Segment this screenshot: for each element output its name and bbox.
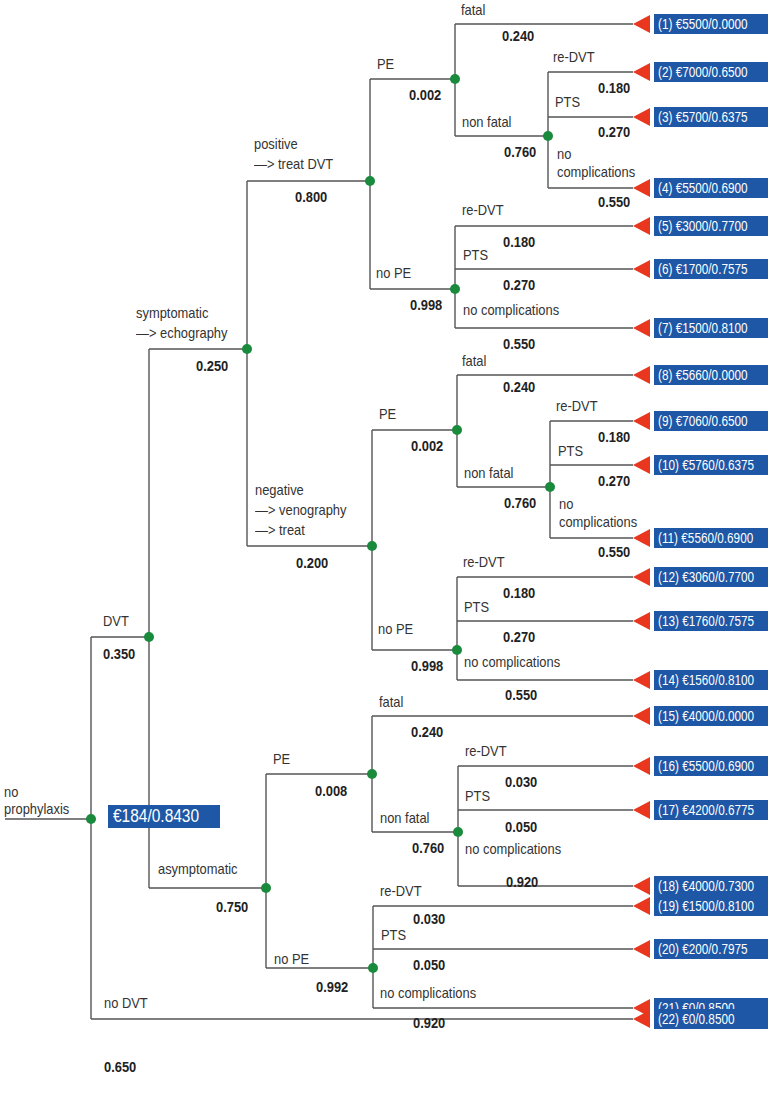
branch-prob-no-pe: 0.992 — [316, 978, 348, 995]
branch-label-no-complications: no complications — [465, 840, 561, 857]
branch-prob-pe: 0.002 — [409, 86, 441, 103]
expected-value: €184/0.8430 — [113, 805, 199, 828]
outcome-box: (16) €5500/0.6900 — [654, 756, 768, 776]
chance-node — [86, 814, 96, 824]
chance-node — [452, 645, 462, 655]
outcome-value: (8) €5660/0.0000 — [658, 365, 748, 385]
decision-tree-diagram: no prophylaxis €184/0.8430 DVT 0.350 no … — [0, 0, 772, 1093]
outcome-box: (14) €1560/0.8100 — [654, 670, 768, 690]
branch-label-negative: negative — [255, 481, 304, 498]
terminal-node-icon — [633, 897, 650, 915]
branch-label-no-pe: no PE — [376, 264, 411, 281]
chance-node — [543, 131, 553, 141]
outcome-value: (10) €5760/0.6375 — [658, 455, 754, 475]
terminal-node-icon — [633, 412, 650, 430]
outcome-box: (15) €4000/0.0000 — [654, 706, 768, 726]
outcome-box: (17) €4200/0.6775 — [654, 800, 768, 820]
branch-label-negative: —> venography — [255, 501, 346, 518]
branch-label-re-dvt: re-DVT — [465, 742, 507, 759]
terminal-node-icon — [633, 63, 650, 81]
chance-node — [367, 541, 377, 551]
outcome-value: (13) €1760/0.7575 — [658, 611, 754, 631]
outcome-box: (9) €7060/0.6500 — [654, 411, 768, 431]
outcome-box: (10) €5760/0.6375 — [654, 455, 768, 475]
branch-prob-no-complications: 0.550 — [505, 686, 537, 703]
outcome-box: (4) €5500/0.6900 — [654, 178, 768, 198]
branch-label-no-pe: no PE — [274, 950, 309, 967]
branch-prob-no-pe: 0.998 — [410, 296, 442, 313]
branch-label-pts: PTS — [465, 787, 490, 804]
branch-label-asymptomatic: asymptomatic — [158, 860, 238, 877]
branch-label-pe: PE — [273, 750, 290, 767]
outcome-value: (7) €1500/0.8100 — [658, 318, 748, 338]
branch-prob-asymptomatic: 0.750 — [216, 898, 248, 915]
chance-node — [450, 284, 460, 294]
branch-label-negative: —> treat — [255, 521, 305, 538]
chance-node — [367, 769, 377, 779]
branch-prob-pts: 0.270 — [503, 276, 535, 293]
terminal-node-icon — [633, 568, 650, 586]
branch-prob-no-complications: 0.550 — [503, 335, 535, 352]
chance-node — [242, 344, 252, 354]
branch-label-no-complications: complications — [559, 513, 637, 530]
branch-label-no-complications: no complications — [463, 301, 559, 318]
expected-value-box: €184/0.8430 — [108, 805, 220, 828]
branch-label-re-dvt: re-DVT — [553, 48, 595, 65]
branch-label-no-complications: no — [559, 495, 573, 512]
outcome-box: (6) €1700/0.7575 — [654, 259, 768, 279]
branch-prob-fatal: 0.240 — [411, 723, 443, 740]
terminal-node-icon — [633, 1010, 650, 1028]
chance-node — [545, 482, 555, 492]
terminal-node-icon — [633, 456, 650, 474]
branch-label-non-fatal: non fatal — [462, 113, 511, 130]
root-label: prophylaxis — [4, 800, 69, 817]
chance-node — [261, 883, 271, 893]
terminal-node-icon — [633, 801, 650, 819]
terminal-node-icon — [633, 612, 650, 630]
branch-prob-fatal: 0.240 — [503, 378, 535, 395]
branch-label-pts: PTS — [558, 442, 583, 459]
outcome-box: (8) €5660/0.0000 — [654, 365, 768, 385]
outcome-value: (4) €5500/0.6900 — [658, 178, 748, 198]
outcome-box: (7) €1500/0.8100 — [654, 318, 768, 338]
outcome-box: (22) €0/0.8500 — [654, 1009, 768, 1029]
outcome-value: (20) €200/0.7975 — [658, 939, 748, 959]
branch-prob-no-complications: 0.920 — [506, 873, 538, 890]
terminal-node-icon — [633, 529, 650, 547]
outcome-box: (2) €7000/0.6500 — [654, 62, 768, 82]
branch-label-positive: positive — [254, 135, 298, 152]
branch-prob-pe: 0.002 — [411, 437, 443, 454]
branch-prob-no-dvt: 0.650 — [104, 1058, 136, 1075]
branch-prob-symptomatic: 0.250 — [196, 357, 228, 374]
branch-prob-no-complications: 0.550 — [598, 543, 630, 560]
branch-label-re-dvt: re-DVT — [556, 397, 598, 414]
branch-prob-negative: 0.200 — [296, 554, 328, 571]
terminal-node-icon — [633, 15, 650, 33]
branch-label-no-complications: no — [557, 145, 571, 162]
branch-label-positive: —> treat DVT — [254, 155, 333, 172]
outcome-value: (11) €5560/0.6900 — [658, 528, 753, 548]
branch-label-symptomatic: symptomatic — [136, 304, 208, 321]
branch-label-pe: PE — [377, 55, 394, 72]
outcome-value: (16) €5500/0.6900 — [658, 756, 754, 776]
branch-prob-no-complications: 0.550 — [598, 193, 630, 210]
branch-prob-pts: 0.270 — [503, 628, 535, 645]
chance-node — [453, 827, 463, 837]
branch-prob-re-dvt: 0.180 — [503, 584, 535, 601]
branch-label-symptomatic: —> echography — [136, 324, 227, 341]
terminal-node-icon — [633, 260, 650, 278]
chance-node — [144, 632, 154, 642]
outcome-value: (9) €7060/0.6500 — [658, 411, 748, 431]
terminal-node-icon — [633, 108, 650, 126]
branch-prob-re-dvt: 0.180 — [598, 428, 630, 445]
branch-label-fatal: fatal — [379, 693, 403, 710]
branch-label-pts: PTS — [381, 926, 406, 943]
branch-label-no-dvt: no DVT — [104, 994, 148, 1011]
branch-label-no-pe: no PE — [378, 620, 413, 637]
branch-prob-fatal: 0.240 — [502, 27, 534, 44]
outcome-value: (17) €4200/0.6775 — [658, 800, 754, 820]
outcome-value: (15) €4000/0.0000 — [658, 706, 754, 726]
outcome-box: (1) €5500/0.0000 — [654, 14, 768, 34]
outcome-value: (12) €3060/0.7700 — [658, 567, 754, 587]
outcome-value: (3) €5700/0.6375 — [658, 107, 748, 127]
